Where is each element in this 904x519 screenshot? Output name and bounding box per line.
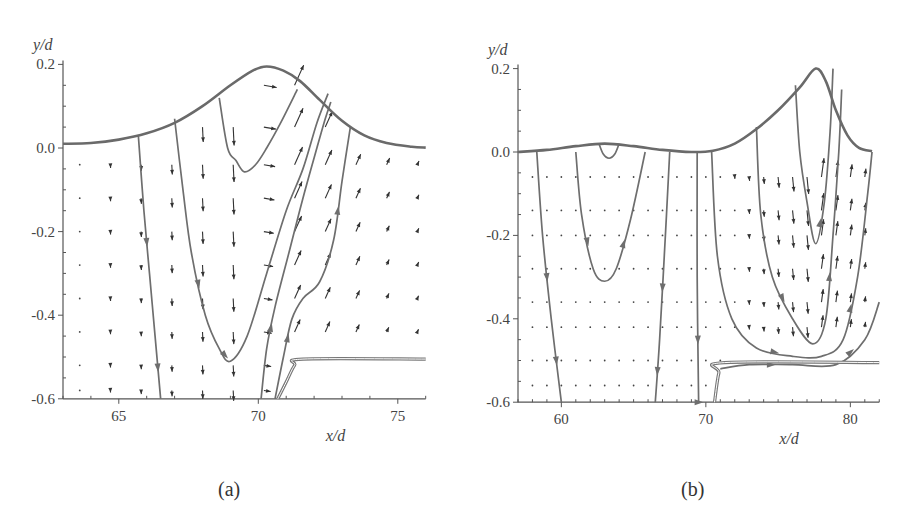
streamline-arrow [695, 336, 701, 345]
vector-dot [719, 360, 721, 362]
vector-dot [560, 301, 562, 303]
vector-dot [79, 331, 81, 333]
panel-b: 0.20.0-0.2-0.4-0.6607080y/dx/d [486, 41, 879, 448]
bottom-step [712, 362, 880, 402]
vector-dot [532, 268, 534, 270]
vector-head [271, 126, 276, 130]
vector-dot [633, 176, 635, 178]
x-tick-label: 65 [111, 408, 126, 424]
vector-dot [560, 209, 562, 211]
vector-dot [532, 176, 534, 178]
vector-dot [676, 385, 678, 387]
vector-dot [676, 268, 678, 270]
vector-head [170, 236, 174, 241]
vector-head [266, 364, 271, 368]
vector-dot [705, 326, 707, 328]
vector-head [272, 85, 277, 89]
vector-dot [604, 209, 606, 211]
y-tick-label: 0.0 [491, 144, 510, 160]
vector-head [139, 265, 143, 270]
vector-dot [676, 301, 678, 303]
vector-dot [691, 209, 693, 211]
vector-dot [691, 176, 693, 178]
vector-dot [575, 235, 577, 237]
vector-head [268, 297, 273, 301]
y-tick-label: -0.6 [486, 394, 510, 410]
y-tick-label: -0.4 [31, 307, 55, 323]
vector-dot [647, 301, 649, 303]
vector-dot [532, 360, 534, 362]
vector-dot [79, 197, 81, 199]
streamlines [138, 89, 350, 398]
streamline [720, 302, 879, 369]
vector-dot [676, 326, 678, 328]
vector-dot [560, 385, 562, 387]
caption-a: (a) [218, 478, 240, 501]
vector-dot [705, 360, 707, 362]
streamline [712, 152, 872, 358]
vector-head [170, 334, 174, 339]
vector-dot [734, 268, 736, 270]
vector-dot [618, 326, 620, 328]
vector-head [232, 372, 236, 377]
vector-dot [618, 385, 620, 387]
bottom-step-inner [278, 359, 426, 399]
vector-dot [546, 209, 548, 211]
vector-dot [532, 301, 534, 303]
vector-head [170, 367, 174, 372]
vector-dot [719, 209, 721, 211]
vector-dot [575, 385, 577, 387]
vector-head [108, 197, 112, 202]
vector-dot [633, 360, 635, 362]
vector-dot [647, 176, 649, 178]
vector-dot [546, 176, 548, 178]
vector-dot [546, 301, 548, 303]
vector-dot [647, 326, 649, 328]
vector-head [108, 230, 112, 235]
streamline [756, 89, 841, 343]
vector-dot [546, 235, 548, 237]
vector-dot [532, 209, 534, 211]
vector-dot [618, 268, 620, 270]
vector-dot [705, 301, 707, 303]
streamline-arrow [267, 323, 273, 332]
vector-dot [79, 231, 81, 233]
vector-dot [604, 268, 606, 270]
x-tick-label: 80 [843, 411, 858, 427]
vector-dot [734, 235, 736, 237]
vector-dot [691, 385, 693, 387]
vector-head [170, 203, 174, 208]
vector-head [139, 389, 143, 394]
vector-dot [676, 209, 678, 211]
vector-dot [691, 268, 693, 270]
vector-dot [633, 326, 635, 328]
streamline [795, 69, 833, 244]
vector-head [232, 141, 236, 146]
vector-dot [633, 301, 635, 303]
x-tick-label: 70 [698, 411, 713, 427]
vector-dot [546, 360, 548, 362]
vector-dot [560, 176, 562, 178]
vector-dot [618, 301, 620, 303]
vector-dot [589, 235, 591, 237]
vector-dot [575, 176, 577, 178]
y-tick-label: -0.2 [31, 224, 55, 240]
vector-head [201, 337, 205, 342]
vector-head [415, 161, 419, 166]
vector-dot [604, 301, 606, 303]
vector-head [415, 296, 419, 301]
streamline [599, 144, 619, 159]
vector-dot [79, 364, 81, 366]
vector-dot [618, 360, 620, 362]
vector-dot [575, 301, 577, 303]
vector-dot [575, 209, 577, 211]
vector-dot [633, 268, 635, 270]
vector-dot [589, 385, 591, 387]
x-tick-label: 60 [554, 411, 569, 427]
vector-dot [705, 209, 707, 211]
vector-dot [589, 209, 591, 211]
vector-dot [662, 326, 664, 328]
vector-head [108, 296, 112, 301]
vector-dot [647, 209, 649, 211]
vector-dot [589, 268, 591, 270]
